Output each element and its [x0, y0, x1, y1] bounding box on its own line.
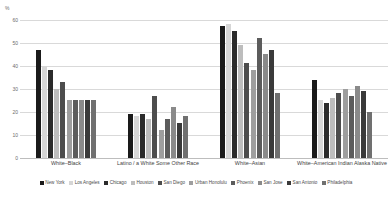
bar[interactable]	[355, 86, 360, 158]
bar[interactable]	[232, 31, 237, 158]
legend-label: San Diego	[164, 180, 185, 185]
legend-swatch-icon	[104, 181, 108, 185]
bar[interactable]	[349, 96, 354, 158]
bar[interactable]	[134, 116, 139, 158]
bar[interactable]	[60, 82, 65, 158]
legend-label: San Antonio	[293, 180, 318, 185]
bar[interactable]	[177, 123, 182, 158]
legend-item[interactable]: San Diego	[158, 180, 185, 185]
bar[interactable]	[275, 93, 280, 158]
legend-item[interactable]: Chicago	[104, 180, 126, 185]
legend-item[interactable]: Los Angeles	[69, 180, 100, 185]
y-axis-tick-label: 20	[0, 109, 18, 115]
x-axis-category-label: White–Asian	[204, 160, 296, 166]
legend-item[interactable]: San Jose	[258, 180, 283, 185]
x-axis-category-labels: White–BlackLatino / a White Some Other R…	[20, 160, 388, 172]
bar[interactable]	[91, 100, 96, 158]
bar[interactable]	[159, 130, 164, 158]
grouped-bar-chart: % 0102030405060 White–BlackLatino / a Wh…	[0, 0, 392, 198]
bar[interactable]	[238, 45, 243, 158]
y-axis-tick-label: 60	[0, 17, 18, 23]
legend-swatch-icon	[158, 181, 162, 185]
legend-label: San Jose	[263, 180, 282, 185]
bar[interactable]	[336, 93, 341, 158]
legend-label: Philadelphia	[327, 180, 352, 185]
legend-swatch-icon	[40, 181, 44, 185]
legend-label: Los Angeles	[75, 180, 100, 185]
bar[interactable]	[85, 100, 90, 158]
bar-group	[20, 8, 112, 158]
bar[interactable]	[67, 100, 72, 158]
bar[interactable]	[269, 50, 274, 158]
legend-swatch-icon	[231, 181, 235, 185]
bar[interactable]	[324, 103, 329, 158]
bar[interactable]	[330, 98, 335, 158]
bar[interactable]	[42, 66, 47, 158]
bar[interactable]	[128, 114, 133, 158]
y-axis-tick-label: 0	[0, 155, 18, 161]
bar[interactable]	[244, 63, 249, 158]
legend-item[interactable]: New York	[40, 180, 65, 185]
legend-swatch-icon	[322, 181, 326, 185]
bar[interactable]	[140, 114, 145, 158]
legend-label: Houston	[136, 180, 153, 185]
legend-item[interactable]: Phoenix	[231, 180, 253, 185]
axis-baseline	[20, 158, 388, 159]
bar[interactable]	[183, 116, 188, 158]
legend-swatch-icon	[131, 181, 135, 185]
bar[interactable]	[73, 100, 78, 158]
legend-swatch-icon	[287, 181, 291, 185]
bar[interactable]	[226, 24, 231, 158]
y-axis-tick-label: 10	[0, 132, 18, 138]
bar[interactable]	[343, 89, 348, 158]
legend-item[interactable]: San Antonio	[287, 180, 317, 185]
bar[interactable]	[251, 70, 256, 158]
legend-item[interactable]: Philadelphia	[322, 180, 353, 185]
legend-label: Urban Honolulu	[195, 180, 227, 185]
bar[interactable]	[257, 38, 262, 158]
x-axis-category-label: White–American Indian Alaska Native	[296, 160, 388, 166]
bar-group	[204, 8, 296, 158]
bar[interactable]	[54, 89, 59, 158]
bar-group	[296, 8, 388, 158]
chart-legend: New YorkLos AngelesChicagoHoustonSan Die…	[0, 180, 392, 185]
bar[interactable]	[171, 107, 176, 158]
legend-swatch-icon	[189, 181, 193, 185]
bar[interactable]	[361, 91, 366, 158]
y-axis-tick-label: 40	[0, 63, 18, 69]
legend-label: Phoenix	[237, 180, 254, 185]
x-axis-category-label: Latino / a White Some Other Race	[112, 160, 204, 166]
bar-group	[112, 8, 204, 158]
y-axis-unit-label: %	[5, 5, 9, 11]
legend-item[interactable]: Houston	[131, 180, 154, 185]
bar[interactable]	[152, 96, 157, 158]
legend-label: New York	[45, 180, 64, 185]
x-axis-category-label: White–Black	[20, 160, 112, 166]
legend-swatch-icon	[258, 181, 262, 185]
bar[interactable]	[36, 50, 41, 158]
bar[interactable]	[48, 70, 53, 158]
bar[interactable]	[367, 112, 372, 158]
bar-groups	[20, 8, 388, 158]
bar[interactable]	[263, 54, 268, 158]
y-axis-tick-label: 30	[0, 86, 18, 92]
bar[interactable]	[79, 100, 84, 158]
y-axis-tick-label: 50	[0, 40, 18, 46]
bar[interactable]	[220, 26, 225, 158]
bar[interactable]	[146, 119, 151, 158]
legend-label: Chicago	[110, 180, 127, 185]
bar[interactable]	[165, 119, 170, 158]
legend-item[interactable]: Urban Honolulu	[189, 180, 227, 185]
legend-swatch-icon	[69, 181, 73, 185]
bar[interactable]	[318, 100, 323, 158]
bar[interactable]	[312, 80, 317, 158]
